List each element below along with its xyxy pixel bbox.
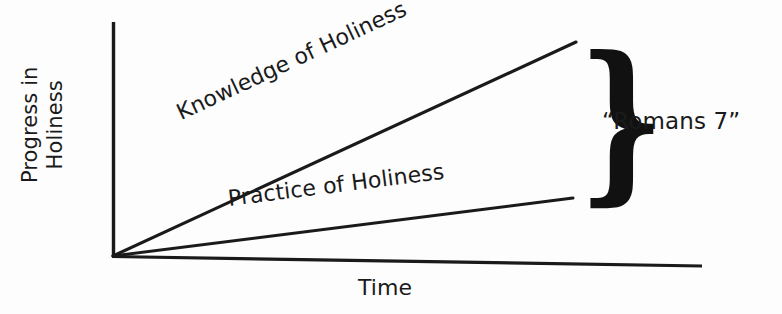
- y-axis-title-line-2: Holiness: [43, 45, 68, 205]
- x-axis-line: [112, 257, 702, 267]
- diagram-linework: [0, 0, 782, 314]
- y-axis-title-line-1: Progress in: [18, 67, 42, 184]
- romans-7-annotation: “Romans 7”: [602, 108, 740, 135]
- y-axis-title: Progress in Holiness: [18, 45, 68, 205]
- knowledge-of-holiness-line: [113, 42, 576, 256]
- holiness-progress-diagram: Progress in Holiness Time Knowledge of H…: [0, 0, 782, 314]
- practice-of-holiness-line: [113, 198, 573, 256]
- x-axis-title: Time: [330, 275, 440, 301]
